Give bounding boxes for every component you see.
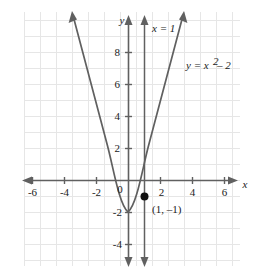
vertical-line-annotation: x = 1 (151, 22, 175, 34)
x-tick-label-2: 2 (159, 186, 165, 198)
parabola-left-arrow (69, 11, 77, 23)
y-tick-label-4: 4 (115, 110, 121, 122)
y-tick-label--4: -4 (113, 238, 123, 250)
y-axis-name: y (119, 14, 125, 26)
x-axis-name: x (242, 178, 248, 190)
coordinate-plane-graph: -6 -4 -2 2 4 6 0 8 6 4 2 -2 -4 y x x = 1… (0, 0, 257, 279)
curve-equation-prefix: y = x (185, 59, 209, 71)
origin-label: 0 (117, 183, 123, 195)
point-label: (1, –1) (152, 203, 182, 216)
y-tick-label-8: 8 (115, 46, 121, 58)
curve-equation-suffix: – 2 (216, 59, 231, 71)
x-tick-label--4: -4 (60, 186, 70, 198)
x-tick-label--2: -2 (92, 186, 101, 198)
vertical-line-bottom-arrow (141, 257, 149, 267)
y-axis-bottom-arrow (125, 257, 133, 267)
graph-svg: -6 -4 -2 2 4 6 0 8 6 4 2 -2 -4 y x x = 1… (0, 0, 257, 279)
parabola-right-arrow (179, 11, 187, 23)
intersection-point-marker (141, 193, 149, 201)
x-axis (22, 177, 238, 185)
grid-lines (24, 12, 240, 266)
x-axis-left-arrow (22, 177, 32, 185)
curve-equation-annotation: y = x 2 – 2 (185, 55, 231, 71)
y-tick-label-2: 2 (115, 142, 121, 154)
x-tick-label-6: 6 (222, 186, 228, 198)
x-tick-label-4: 4 (190, 186, 196, 198)
x-tick-label--6: -6 (28, 186, 38, 198)
y-tick-label--2: -2 (113, 206, 122, 218)
y-tick-label-6: 6 (115, 78, 121, 90)
